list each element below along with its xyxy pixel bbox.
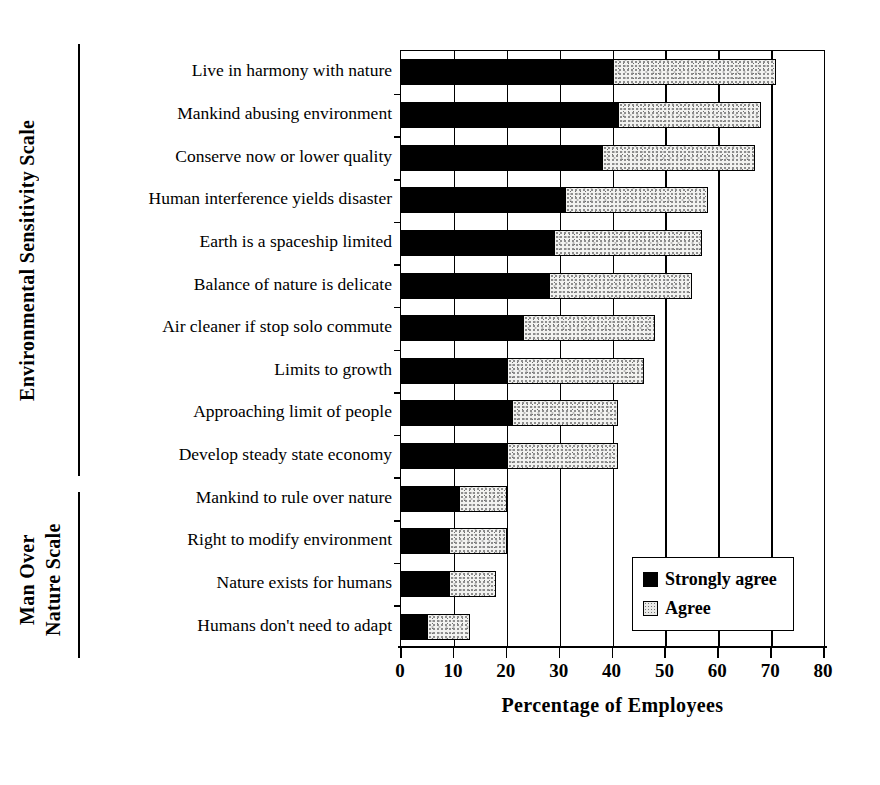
group-label-nature-scale: Nature Scale — [42, 500, 65, 660]
bar-row — [401, 528, 824, 554]
bar-segment-agree — [618, 102, 761, 128]
group-rule-man-over-nature — [78, 492, 80, 658]
category-label: Balance of nature is delicate — [142, 276, 392, 294]
category-label: Human interference yields disaster — [142, 190, 392, 208]
category-label: Develop steady state economy — [142, 446, 392, 464]
x-axis-title: Percentage of Employees — [400, 694, 825, 717]
y-axis-tick — [394, 264, 401, 266]
bar-segment-strongly-agree — [401, 145, 602, 171]
legend-swatch-strongly-agree — [643, 572, 658, 587]
bar-row — [401, 443, 824, 469]
bar-segment-agree — [613, 59, 777, 85]
bar-segment-agree — [565, 187, 708, 213]
y-axis-tick — [394, 307, 401, 309]
group-label-man-over: Man Over — [16, 500, 39, 660]
category-label: Mankind to rule over nature — [142, 489, 392, 507]
bar-segment-agree — [459, 486, 507, 512]
bar-row — [401, 486, 824, 512]
bar-segment-agree — [602, 145, 755, 171]
bar-segment-agree — [512, 400, 618, 426]
y-axis-tick — [394, 520, 401, 522]
y-axis-tick — [394, 435, 401, 437]
group-label-environmental-sensitivity-scale: Environmental Sensitivity Scale — [16, 42, 39, 478]
bar-row — [401, 400, 824, 426]
bar-segment-strongly-agree — [401, 102, 618, 128]
x-axis-tick-label: 10 — [443, 660, 462, 682]
y-axis-tick — [394, 605, 401, 607]
x-axis-tick — [400, 647, 402, 658]
bar-segment-agree — [549, 273, 692, 299]
x-axis-tick-label: 30 — [549, 660, 568, 682]
x-axis-ticks — [400, 647, 825, 648]
bar-row — [401, 230, 824, 256]
gridline-10 — [454, 51, 455, 646]
bar-segment-agree — [554, 230, 702, 256]
bar-segment-agree — [427, 614, 469, 640]
legend-swatch-agree — [643, 601, 658, 616]
y-axis-tick — [394, 392, 401, 394]
bar-segment-strongly-agree — [401, 614, 427, 640]
bar-segment-strongly-agree — [401, 273, 549, 299]
group-rule-environmental — [78, 44, 80, 476]
x-axis-tick-label: 0 — [395, 660, 405, 682]
x-axis-tick — [453, 647, 455, 658]
x-axis-tick — [506, 647, 508, 658]
bar-segment-agree — [507, 358, 644, 384]
legend-label-agree: Agree — [665, 598, 711, 619]
category-label: Mankind abusing environment — [142, 105, 392, 123]
y-axis-tick — [394, 350, 401, 352]
gridline-40 — [613, 51, 614, 646]
category-label: Live in harmony with nature — [142, 62, 392, 80]
legend-label-strongly-agree: Strongly agree — [665, 569, 777, 590]
x-axis-tick-label: 50 — [655, 660, 674, 682]
y-axis-tick — [394, 477, 401, 479]
category-label: Humans don't need to adapt — [142, 617, 392, 635]
category-label: Approaching limit of people — [142, 403, 392, 421]
y-axis-tick — [394, 94, 401, 96]
legend-item-agree: Agree — [643, 594, 793, 623]
bar-segment-strongly-agree — [401, 230, 554, 256]
x-axis-tick-label: 80 — [814, 660, 833, 682]
category-label: Conserve now or lower quality — [142, 148, 392, 166]
x-axis-tick-label: 20 — [496, 660, 515, 682]
x-axis-tick — [717, 647, 719, 658]
bar-row — [401, 273, 824, 299]
bar-segment-strongly-agree — [401, 59, 613, 85]
category-axis-labels: Live in harmony with natureMankind abusi… — [140, 0, 392, 660]
x-axis-tick — [559, 647, 561, 658]
bar-segment-agree — [523, 315, 655, 341]
bar-segment-agree — [449, 528, 507, 554]
x-axis-tick — [664, 647, 666, 658]
category-label: Limits to growth — [142, 361, 392, 379]
bar-segment-agree — [449, 571, 497, 597]
bar-segment-strongly-agree — [401, 187, 565, 213]
bar-segment-strongly-agree — [401, 528, 449, 554]
x-axis-tick — [612, 647, 614, 658]
x-axis-tick-label: 70 — [761, 660, 780, 682]
legend-item-strongly-agree: Strongly agree — [643, 565, 793, 594]
x-axis-tick-label: 60 — [708, 660, 727, 682]
category-label: Air cleaner if stop solo commute — [142, 318, 392, 336]
category-label: Earth is a spaceship limited — [142, 233, 392, 251]
bar-row — [401, 59, 824, 85]
bar-segment-strongly-agree — [401, 400, 512, 426]
legend: Strongly agree Agree — [632, 557, 794, 631]
gridline-30 — [560, 51, 561, 646]
x-axis-tick — [823, 647, 825, 658]
category-label: Nature exists for humans — [142, 574, 392, 592]
bar-row — [401, 315, 824, 341]
bar-row — [401, 358, 824, 384]
bar-row — [401, 187, 824, 213]
x-axis-tick — [770, 647, 772, 658]
y-axis-tick — [394, 563, 401, 565]
y-axis-tick — [394, 179, 401, 181]
chart-canvas: Environmental Sensitivity Scale Man Over… — [0, 0, 880, 785]
bar-segment-strongly-agree — [401, 358, 507, 384]
bar-segment-strongly-agree — [401, 443, 507, 469]
bar-segment-strongly-agree — [401, 571, 449, 597]
y-axis-tick — [394, 222, 401, 224]
y-axis-tick — [394, 136, 401, 138]
gridline-20 — [507, 51, 508, 646]
bar-segment-strongly-agree — [401, 486, 459, 512]
bar-segment-strongly-agree — [401, 315, 523, 341]
